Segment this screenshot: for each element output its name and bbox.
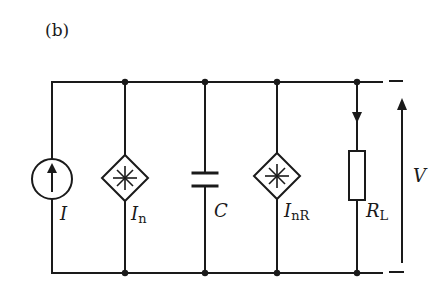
label-load-resistor-sub: L [380,208,389,223]
junction-dot [354,79,360,85]
label-noise-source-1-sub: n [138,211,147,226]
junction-dot [274,79,280,85]
noise-star-icon-2 [265,164,289,188]
junction-dot [274,270,280,276]
label-load-resistor-main: R [365,200,380,221]
junction-dot [122,79,128,85]
load-resistor-body [349,151,365,200]
junction-dot [122,270,128,276]
voltage-arrowhead-icon [397,98,407,110]
current-source-arrow-icon [47,163,57,173]
panel-label: (b) [45,20,69,40]
circuit-diagram: (b) I In C InR RL V [0,0,446,299]
noise-star-icon-1 [113,166,137,190]
junction-dot [202,79,208,85]
label-capacitor: C [214,200,228,221]
label-voltage: V [413,165,428,186]
junction-dot [354,270,360,276]
label-noise-source-1: In [130,203,147,226]
label-load-resistor: RL [365,200,389,223]
label-noise-source-2-sub: nR [291,208,310,223]
label-current-source: I [59,203,68,224]
load-current-arrow-icon [352,112,362,123]
junction-dots [122,79,360,276]
junction-dot [202,270,208,276]
label-noise-source-2: InR [283,200,310,223]
